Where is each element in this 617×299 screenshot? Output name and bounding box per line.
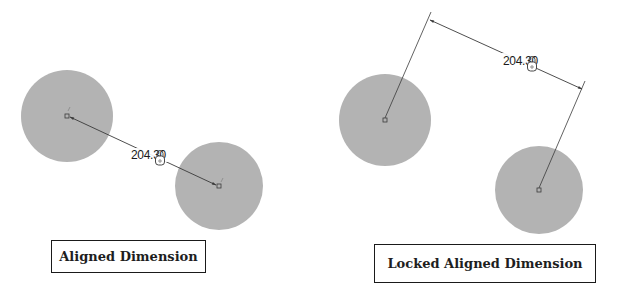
locked-aligned-dimension-sketch: 204.30 bbox=[339, 12, 585, 234]
caption-label: Locked Aligned Dimension bbox=[387, 256, 582, 271]
circle-left-2[interactable] bbox=[175, 142, 263, 230]
caption-locked-aligned-dimension: Locked Aligned Dimension bbox=[374, 244, 596, 283]
circle-left-1[interactable] bbox=[21, 70, 113, 162]
caption-aligned-dimension: Aligned Dimension bbox=[51, 240, 206, 273]
aligned-dimension-sketch: 204.30 bbox=[21, 70, 263, 230]
circle-right-2[interactable] bbox=[495, 146, 583, 234]
caption-label: Aligned Dimension bbox=[59, 249, 197, 264]
circle-right-1[interactable] bbox=[339, 74, 431, 166]
